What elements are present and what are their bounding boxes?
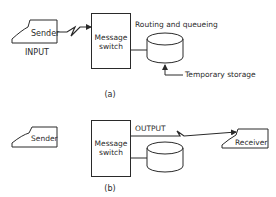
switch-label-b-line1: Message bbox=[95, 139, 128, 148]
temporary-storage-label: Temporary storage bbox=[184, 70, 256, 79]
caption-a: (a) bbox=[104, 90, 115, 99]
receiver-terminal: Receiver bbox=[222, 129, 268, 148]
sender-terminal-a: Sender bbox=[12, 20, 60, 43]
message-switch-a: Message switch bbox=[92, 14, 131, 69]
sender-label-b: Sender bbox=[31, 134, 59, 143]
input-label: INPUT bbox=[25, 48, 49, 57]
switch-label-a-line1: Message bbox=[95, 33, 128, 42]
storage-disk-a bbox=[147, 33, 183, 63]
receiver-label: Receiver bbox=[235, 138, 268, 147]
output-label: OUTPUT bbox=[135, 124, 166, 133]
sender-terminal-b: Sender bbox=[12, 127, 59, 147]
message-switching-diagram: Sender INPUT Message switch Routing and … bbox=[0, 0, 276, 197]
message-switch-b: Message switch bbox=[92, 121, 131, 177]
temporary-storage-pointer bbox=[165, 65, 183, 75]
sender-label-a: Sender bbox=[31, 29, 60, 38]
routing-label: Routing and queueing bbox=[135, 20, 218, 29]
diagram-a: Sender INPUT Message switch Routing and … bbox=[12, 14, 256, 100]
storage-disk-b bbox=[147, 142, 183, 172]
caption-b: (b) bbox=[104, 184, 115, 193]
input-link-arrow bbox=[57, 27, 91, 36]
diagram-b: Sender Message switch OUTPUT Receiver (b… bbox=[12, 121, 268, 194]
switch-label-b-line2: switch bbox=[99, 148, 123, 157]
switch-label-a-line2: switch bbox=[99, 42, 123, 51]
